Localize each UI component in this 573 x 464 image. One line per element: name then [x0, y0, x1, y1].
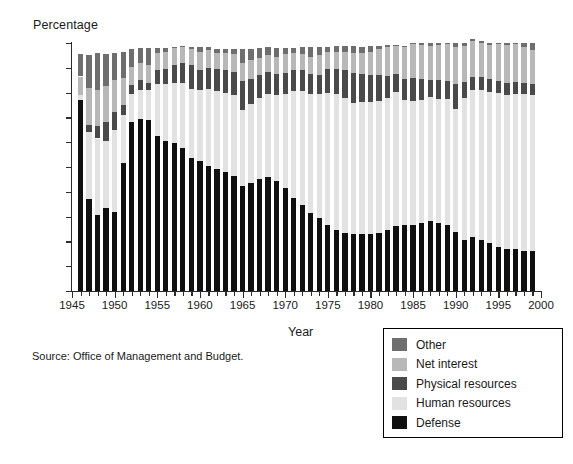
bar-segment — [180, 63, 185, 83]
bar-segment — [86, 132, 91, 199]
bar-segment — [180, 83, 185, 149]
bar-segment — [445, 99, 450, 225]
legend-item: Other — [392, 335, 562, 355]
bar-segment — [180, 47, 185, 63]
x-tick-mark-minor — [353, 292, 354, 296]
bar-column — [453, 43, 458, 291]
x-tick-mark-minor — [524, 292, 525, 296]
x-tick-mark-minor — [81, 292, 82, 296]
bar-segment — [376, 75, 381, 101]
y-axis-title: Percentage — [33, 18, 98, 32]
bar-segment — [146, 120, 151, 291]
bar-segment — [393, 92, 398, 226]
bar-segment — [214, 69, 219, 91]
x-axis-title: Year — [288, 325, 313, 339]
bar-segment — [402, 46, 407, 78]
bar-segment — [240, 81, 245, 110]
bar-segment — [325, 225, 330, 291]
x-tick-mark-major — [456, 292, 457, 298]
x-tick-mark-minor — [345, 292, 346, 296]
bar-segment — [334, 230, 339, 291]
bar-column — [274, 43, 279, 291]
x-tick-label: 1960 — [187, 299, 213, 311]
bar-segment — [86, 199, 91, 291]
bar-segment — [265, 72, 270, 94]
bar-segment — [274, 74, 279, 95]
bar-segment — [462, 98, 467, 240]
bar-segment — [265, 177, 270, 291]
bar-segment — [428, 46, 433, 80]
bar-segment — [78, 54, 83, 76]
bar-column — [334, 43, 339, 291]
bar-segment — [206, 89, 211, 166]
bar-segment — [470, 90, 475, 238]
bar-segment — [163, 48, 168, 52]
x-tick-label: 1990 — [443, 299, 469, 311]
bar-segment — [453, 232, 458, 291]
bar-column — [129, 43, 134, 291]
bar-segment — [138, 119, 143, 291]
bar-segment — [479, 41, 484, 43]
bar-segment — [163, 84, 168, 141]
bar-segment — [78, 77, 83, 96]
bar-segment — [436, 43, 441, 45]
bar-segment — [342, 70, 347, 97]
bar-segment — [393, 45, 398, 46]
bar-segment — [172, 65, 177, 82]
x-tick-mark-minor — [302, 292, 303, 296]
bar-segment — [342, 52, 347, 71]
bar-segment — [368, 46, 373, 52]
x-tick-label: 1970 — [272, 299, 298, 311]
bar-segment — [385, 45, 390, 47]
bar-segment — [240, 186, 245, 291]
bar-segment — [103, 122, 108, 141]
bar-segment — [103, 208, 108, 291]
bar-segment — [283, 48, 288, 54]
bar-segment — [393, 74, 398, 93]
bar-segment — [274, 181, 279, 291]
x-tick-mark-major — [370, 292, 371, 298]
bar-segment — [504, 95, 509, 249]
bar-column — [283, 43, 288, 291]
x-tick-mark-minor — [422, 292, 423, 296]
x-tick-mark-minor — [507, 292, 508, 296]
bar-segment — [342, 233, 347, 291]
bar-column — [155, 43, 160, 291]
bar-column — [146, 43, 151, 291]
bar-segment — [78, 95, 83, 100]
bar-segment — [351, 234, 356, 291]
bar-segment — [155, 53, 160, 70]
x-tick-label: 1995 — [486, 299, 512, 311]
bar-segment — [155, 70, 160, 84]
bar-segment — [308, 94, 313, 213]
bar-segment — [103, 54, 108, 86]
bar-segment — [214, 49, 219, 53]
x-tick-mark-major — [243, 292, 244, 298]
x-tick-mark-minor — [208, 292, 209, 296]
x-tick-mark-minor — [260, 292, 261, 296]
bar-column — [172, 43, 177, 291]
bar-segment — [521, 47, 526, 83]
bar-column — [189, 43, 194, 291]
bar-segment — [530, 43, 535, 50]
x-tick-mark-major — [200, 292, 201, 298]
bar-column — [479, 43, 484, 291]
x-tick-mark-minor — [234, 292, 235, 296]
bar-segment — [419, 45, 424, 79]
bar-segment — [479, 240, 484, 291]
bar-segment — [359, 234, 364, 291]
bar-segment — [95, 215, 100, 291]
bar-segment — [470, 39, 475, 41]
x-tick-mark-minor — [532, 292, 533, 296]
bar-segment — [189, 89, 194, 158]
bar-segment — [112, 53, 117, 80]
bar-segment — [257, 179, 262, 291]
bar-segment — [308, 47, 313, 57]
x-tick-mark-minor — [89, 292, 90, 296]
bar-segment — [496, 43, 501, 81]
bar-segment — [146, 48, 151, 65]
bar-segment — [231, 54, 236, 71]
bar-column — [436, 43, 441, 291]
bar-segment — [308, 57, 313, 74]
bar-segment — [376, 49, 381, 74]
